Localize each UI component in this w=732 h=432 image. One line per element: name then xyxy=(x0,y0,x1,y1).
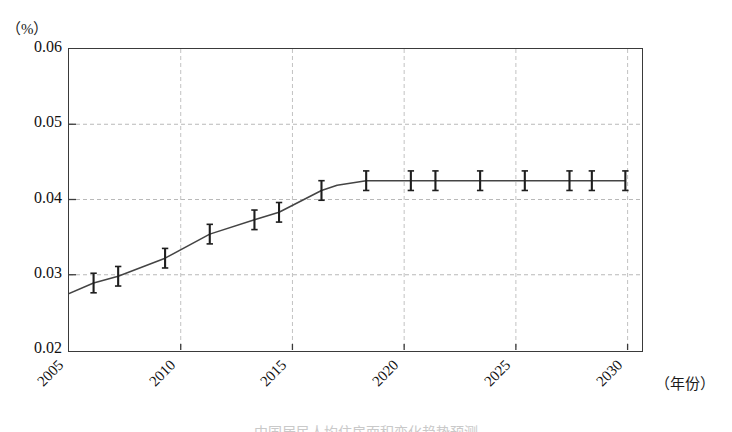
data-series xyxy=(69,181,625,294)
x-axis-name-label: （年份） xyxy=(655,372,715,393)
chart-canvas xyxy=(69,49,641,350)
figure-caption: 中国居民人均住房面积变化趋势预测 xyxy=(0,420,732,432)
error-bar xyxy=(162,248,168,268)
series-line xyxy=(69,181,625,294)
y-tick-label: 0.04 xyxy=(6,189,62,207)
x-tick-label: 2025 xyxy=(481,357,514,390)
gridlines xyxy=(69,49,641,350)
y-tick-label: 0.05 xyxy=(6,113,62,131)
plot-area xyxy=(68,48,643,352)
y-axis-unit-label: （%） xyxy=(6,17,49,38)
y-tick-label: 0.03 xyxy=(6,264,62,282)
y-tick-label: 0.06 xyxy=(6,38,62,56)
chart-figure: （%） 0.060.050.040.030.02 200520102015202… xyxy=(0,0,732,432)
x-tick-label: 2010 xyxy=(146,357,179,390)
x-tick-label: 2015 xyxy=(257,357,290,390)
x-tick-label: 2030 xyxy=(593,357,626,390)
x-tick-label: 2005 xyxy=(34,357,67,390)
axis-ticks xyxy=(69,124,628,350)
y-tick-label: 0.02 xyxy=(6,339,62,357)
x-tick-label: 2020 xyxy=(369,357,402,390)
